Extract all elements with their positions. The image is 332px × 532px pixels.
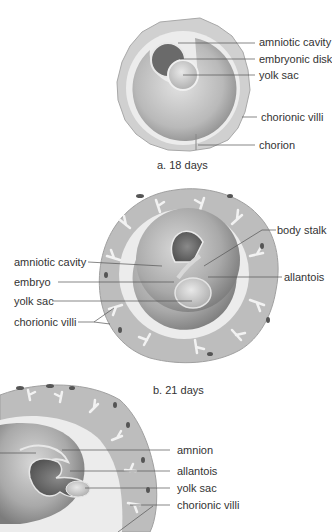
label-c-amnion: amnion <box>177 444 213 457</box>
label-a-chorionic-villi: chorionic villi <box>261 111 323 124</box>
label-b-yolk-sac: yolk sac <box>14 295 54 308</box>
label-b-amniotic-cavity: amniotic cavity <box>14 256 86 269</box>
figure-a-illustration <box>117 18 257 151</box>
caption-a: a. 18 days <box>157 159 208 171</box>
label-b-allantois: allantois <box>284 271 324 284</box>
label-a-yolk-sac: yolk sac <box>259 69 299 82</box>
label-c-yolk-sac: yolk sac <box>177 482 217 495</box>
figure-b-illustration <box>52 189 282 363</box>
label-a-embryonic-disk: embryonic disk <box>259 53 332 66</box>
caption-b: b. 21 days <box>153 384 204 396</box>
label-a-amniotic-cavity: amniotic cavity <box>259 36 331 49</box>
label-b-body-stalk: body stalk <box>277 224 327 237</box>
figure-c-illustration <box>0 384 170 532</box>
label-b-chorionic-villi: chorionic villi <box>14 316 76 329</box>
label-b-embryo: embryo <box>14 276 51 289</box>
label-c-chorionic-villi: chorionic villi <box>177 499 239 512</box>
label-c-allantois: allantois <box>177 465 217 478</box>
label-a-chorion: chorion <box>259 139 295 152</box>
